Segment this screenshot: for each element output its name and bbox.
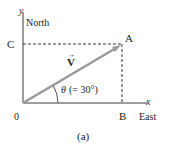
angle-arc xyxy=(53,86,58,104)
point-b-label: B xyxy=(119,110,126,122)
theta-symbol: θ xyxy=(61,84,66,95)
figure-caption: (a) xyxy=(77,130,90,143)
origin-label: 0 xyxy=(14,111,19,122)
north-label: North xyxy=(26,17,49,28)
east-label: East xyxy=(139,111,156,122)
point-c-label: C xyxy=(7,38,14,50)
vector-arrow-symbol: → xyxy=(67,50,75,59)
point-a-label: A xyxy=(125,32,133,44)
angle-annotation: (= 30°) xyxy=(69,84,98,96)
x-axis-label: x xyxy=(145,96,151,107)
y-axis-label: y xyxy=(18,5,24,16)
vector-diagram: y North C A V → θ (= 30°) 0 B x East (a) xyxy=(0,0,170,144)
